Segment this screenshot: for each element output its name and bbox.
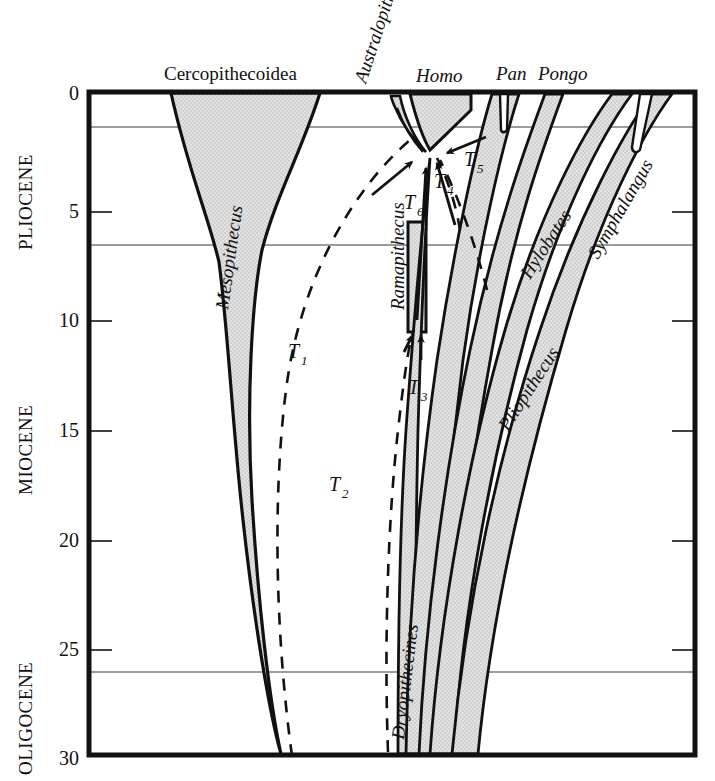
tick-label-0: 0 [69, 82, 79, 104]
t5-base: T [464, 148, 477, 170]
tick-label-25: 25 [59, 638, 79, 660]
figure-root: PLIOCENE MIOCENE OLIGOCENE 0 5 10 15 20 … [0, 0, 715, 781]
label-pan: Pan [495, 63, 527, 84]
tick-label-5: 5 [69, 200, 79, 222]
t1-base: T [288, 340, 301, 362]
tick-label-30: 30 [59, 747, 79, 769]
t6-sub: 6 [417, 204, 424, 219]
t1-sub: 1 [301, 353, 308, 368]
epoch-label-oligocene: OLIGOCENE [15, 662, 36, 775]
label-ramapithecus: Ramapithecus [387, 202, 408, 311]
t4-base: T [434, 170, 447, 192]
t2-base: T [329, 473, 342, 495]
epoch-labels: PLIOCENE MIOCENE OLIGOCENE [15, 154, 36, 775]
t6-base: T [404, 191, 417, 213]
t2-sub: 2 [342, 486, 349, 501]
label-cercopithecoidea: Cercopithecoidea [164, 63, 298, 84]
tick-label-20: 20 [59, 529, 79, 551]
label-pongo: Pongo [537, 63, 588, 84]
pan-top-notch [500, 94, 508, 132]
tick-label-10: 10 [59, 309, 79, 331]
tick-label-15: 15 [59, 419, 79, 441]
t4-sub: 4 [447, 183, 454, 198]
t5-sub: 5 [477, 161, 484, 176]
phylogeny-chart: PLIOCENE MIOCENE OLIGOCENE 0 5 10 15 20 … [0, 0, 715, 781]
t3-base: T [408, 376, 421, 398]
epoch-label-pliocene: PLIOCENE [15, 154, 36, 250]
epoch-label-miocene: MIOCENE [15, 405, 36, 495]
t3-sub: 3 [420, 389, 428, 404]
label-homo: Homo [415, 65, 462, 86]
